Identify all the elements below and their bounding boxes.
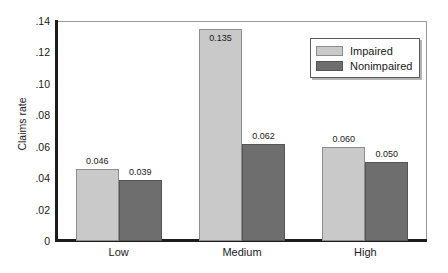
category-label-medium: Medium [222, 246, 261, 258]
y-axis-tick-label: .08 [6, 109, 50, 121]
bar-value-label: 0.046 [86, 156, 109, 166]
bar-high-nonimpaired [365, 162, 408, 241]
bar-value-label: 0.050 [376, 149, 399, 159]
y-axis-tick-label: .10 [6, 78, 50, 90]
y-axis-tick-label: .06 [6, 141, 50, 153]
bar-value-label: 0.135 [209, 33, 232, 43]
legend-swatch-nonimpaired [316, 61, 343, 71]
y-axis-tick-label: .12 [6, 46, 50, 58]
legend-label-nonimpaired: Nonimpaired [350, 60, 412, 72]
bar-chart: Claims rate 0.02.04.06.08.10.12.14 0.046… [0, 0, 448, 273]
category-label-high: High [354, 246, 377, 258]
bar-medium-impaired [199, 29, 242, 241]
bar-value-label: 0.062 [252, 131, 275, 141]
bar-medium-nonimpaired [242, 144, 285, 241]
y-axis-tick-label: .04 [6, 172, 50, 184]
bar-value-label: 0.039 [129, 167, 152, 177]
category-label-low: Low [109, 246, 129, 258]
legend-item-impaired: Impaired [316, 43, 412, 58]
bar-value-label: 0.060 [333, 134, 356, 144]
chart-legend: Impaired Nonimpaired [310, 38, 420, 78]
bar-low-impaired [76, 169, 119, 241]
y-axis-title: Claims rate [16, 79, 28, 169]
legend-item-nonimpaired: Nonimpaired [316, 58, 412, 73]
legend-swatch-impaired [316, 46, 343, 56]
y-axis-tick-label: .14 [6, 15, 50, 27]
legend-label-impaired: Impaired [350, 45, 393, 57]
bar-high-impaired [322, 147, 365, 241]
y-axis-tick-label: 0 [6, 235, 50, 247]
y-axis-tick-label: .02 [6, 204, 50, 216]
bar-low-nonimpaired [119, 180, 162, 241]
